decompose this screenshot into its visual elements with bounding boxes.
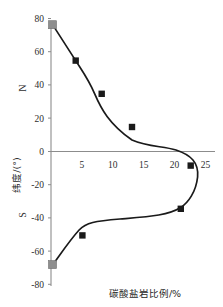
data-point-marker bbox=[99, 91, 105, 97]
hemisphere-label-south: S bbox=[17, 212, 28, 218]
data-point-markers bbox=[49, 21, 194, 269]
data-point-endpoint-south bbox=[49, 261, 57, 269]
y-tick-label-20: 20 bbox=[35, 114, 45, 124]
data-point-marker bbox=[129, 124, 135, 130]
data-point-marker bbox=[79, 232, 85, 238]
hemisphere-label-north: N bbox=[17, 84, 28, 91]
y-tick-label-minus40: -40 bbox=[31, 213, 44, 223]
data-point-marker bbox=[73, 57, 79, 63]
x-tick-label-20: 20 bbox=[170, 160, 180, 170]
x-axis-title: 碳酸盐岩比例/% bbox=[109, 288, 181, 299]
y-axis-title: 纬度/(°) bbox=[11, 157, 22, 192]
y-tick-label-60: 60 bbox=[35, 47, 45, 57]
latitude-carbonate-line-chart: 80 60 40 20 0 -20 -40 -60 -80 5 10 15 20… bbox=[0, 0, 223, 307]
x-tick-label-5: 5 bbox=[80, 160, 85, 170]
y-tick-label-40: 40 bbox=[35, 80, 45, 90]
y-tick-label-minus20: -20 bbox=[31, 180, 44, 190]
x-tick-label-15: 15 bbox=[139, 160, 149, 170]
y-tick-label-0: 0 bbox=[39, 147, 44, 157]
x-tick-label-10: 10 bbox=[108, 160, 118, 170]
chart-container: 80 60 40 20 0 -20 -40 -60 -80 5 10 15 20… bbox=[0, 0, 223, 307]
y-tick-label-80: 80 bbox=[35, 14, 45, 24]
data-point-marker bbox=[188, 162, 194, 168]
data-point-marker bbox=[178, 206, 184, 212]
y-tick-label-minus60: -60 bbox=[31, 247, 44, 257]
y-tick-label-minus80: -80 bbox=[31, 280, 44, 290]
data-point-endpoint-north bbox=[49, 21, 57, 29]
x-tick-label-25: 25 bbox=[201, 160, 211, 170]
